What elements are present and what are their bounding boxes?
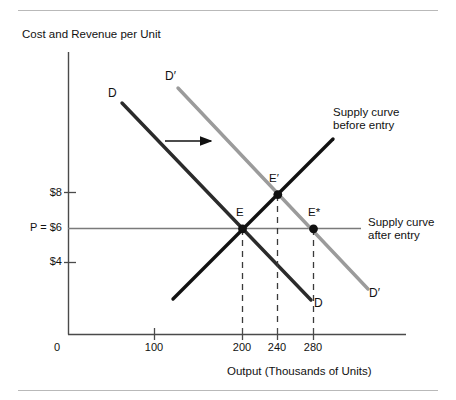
curve-label-demand-right: D bbox=[314, 297, 323, 310]
curve-label-demand-shifted-right: D′ bbox=[369, 287, 380, 300]
x-tick-label-100: 100 bbox=[136, 341, 172, 353]
y-axis-title: Cost and Revenue per Unit bbox=[22, 28, 161, 41]
x-axis-title: Output (Thousands of Units) bbox=[227, 365, 371, 378]
x-tick-label-240: 240 bbox=[259, 341, 295, 353]
curve-label-demand-shifted-left: D′ bbox=[165, 70, 176, 83]
point-label-e-star: E* bbox=[308, 206, 320, 219]
equilibrium-point-e-prime bbox=[273, 190, 282, 199]
y-tick-label-4: $4 bbox=[30, 255, 62, 267]
equilibrium-point-e-star bbox=[309, 224, 318, 233]
x-tick-label-200: 200 bbox=[224, 341, 260, 353]
y-tick-label-8: $8 bbox=[30, 186, 62, 198]
demand-curve-original bbox=[122, 103, 311, 300]
equilibrium-point-e bbox=[238, 224, 247, 233]
point-label-e: E bbox=[236, 206, 244, 219]
supply-curve-before-entry bbox=[173, 139, 333, 299]
curve-label-demand-left: D bbox=[108, 87, 117, 100]
annotation-supply-after-entry: Supply curve after entry bbox=[368, 216, 434, 242]
economics-figure: Cost and Revenue per Unit Output (Thousa… bbox=[0, 0, 456, 400]
chart-canvas bbox=[0, 0, 456, 400]
point-label-e-prime: E′ bbox=[269, 172, 279, 185]
annotation-supply-before-entry: Supply curve before entry bbox=[333, 106, 399, 132]
y-tick-label-price: P = $6 bbox=[6, 221, 62, 233]
x-tick-label-0: 0 bbox=[48, 341, 66, 353]
x-tick-label-280: 280 bbox=[295, 341, 331, 353]
